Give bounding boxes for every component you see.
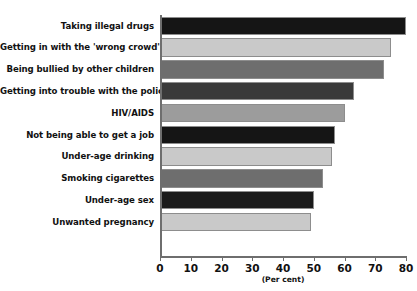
x-axis-tick-label: 20 <box>214 262 229 274</box>
x-axis-tick-label: 50 <box>306 262 321 274</box>
bar <box>160 191 314 209</box>
chart-row: Being bullied by other children <box>0 59 417 81</box>
x-axis-tick <box>406 256 407 261</box>
category-label: HIV/AIDS <box>0 109 160 118</box>
bar-cell <box>160 15 417 37</box>
x-axis-tick-label: 10 <box>183 262 198 274</box>
x-axis-tick-label: 40 <box>276 262 291 274</box>
bar <box>160 213 311 231</box>
x-axis-tick-label: 80 <box>399 262 414 274</box>
category-label: Under-age sex <box>0 196 160 205</box>
x-axis-tick <box>191 256 192 261</box>
chart-row: Smoking cigarettes <box>0 168 417 190</box>
bar-cell <box>160 37 417 59</box>
bar <box>160 17 406 35</box>
category-label: Being bullied by other children <box>0 65 160 74</box>
x-axis-tick <box>314 256 315 261</box>
bar <box>160 104 345 122</box>
x-axis-tick <box>160 256 161 261</box>
category-label: Under-age drinking <box>0 152 160 161</box>
bar <box>160 60 384 78</box>
x-axis-tick <box>222 256 223 261</box>
x-axis-tick-label: 70 <box>368 262 383 274</box>
bar <box>160 82 354 100</box>
category-label: Unwanted pregnancy <box>0 218 160 227</box>
category-label: Not being able to get a job <box>0 131 160 140</box>
x-axis-title: (Per cent) <box>262 275 305 284</box>
chart-row: Under-age sex <box>0 189 417 211</box>
chart-row: Under-age drinking <box>0 146 417 168</box>
x-axis-tick-label: 0 <box>156 262 163 274</box>
bar-cell <box>160 102 417 124</box>
chart-row: Unwanted pregnancy <box>0 211 417 233</box>
x-axis-tick <box>283 256 284 261</box>
chart-row: Getting in with the 'wrong crowd' <box>0 37 417 59</box>
chart-row: Not being able to get a job <box>0 124 417 146</box>
chart-rows: Taking illegal drugsGetting in with the … <box>0 15 417 233</box>
bar-cell <box>160 59 417 81</box>
bar <box>160 126 335 144</box>
category-label: Getting in with the 'wrong crowd' <box>0 43 160 52</box>
bar-cell <box>160 189 417 211</box>
bar-cell <box>160 124 417 146</box>
chart-row: HIV/AIDS <box>0 102 417 124</box>
x-axis-tick-label: 30 <box>245 262 260 274</box>
chart-row: Taking illegal drugs <box>0 15 417 37</box>
bar-cell <box>160 211 417 233</box>
chart-row: Getting into trouble with the police <box>0 80 417 102</box>
category-label: Taking illegal drugs <box>0 22 160 31</box>
x-axis-tick-label: 60 <box>337 262 352 274</box>
category-label: Getting into trouble with the police <box>0 87 160 96</box>
bar-cell <box>160 80 417 102</box>
y-axis-line <box>160 15 162 257</box>
bar-cell <box>160 168 417 190</box>
x-axis-tick <box>252 256 253 261</box>
x-axis-tick <box>375 256 376 261</box>
bar <box>160 147 332 165</box>
category-label: Smoking cigarettes <box>0 174 160 183</box>
bar-cell <box>160 146 417 168</box>
x-axis-tick <box>345 256 346 261</box>
bar-chart: Taking illegal drugsGetting in with the … <box>0 0 417 291</box>
bar <box>160 38 391 56</box>
bar <box>160 169 323 187</box>
